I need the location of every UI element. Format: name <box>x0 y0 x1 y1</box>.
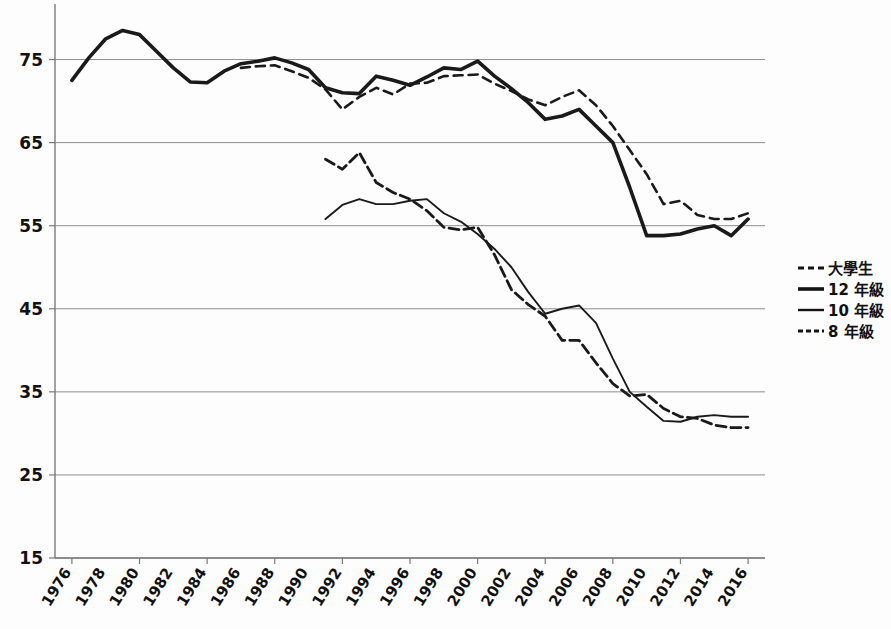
x-tick-label-1982: 1982 <box>139 565 176 610</box>
x-tick-label-2002: 2002 <box>477 565 514 610</box>
y-tick-label-35: 35 <box>19 382 43 402</box>
legend-label-1: 12 年級 <box>828 281 884 299</box>
series-line-1 <box>72 30 748 235</box>
x-tick-label-2014: 2014 <box>680 565 717 610</box>
data-series-group <box>72 30 748 427</box>
x-tick-label-1998: 1998 <box>410 565 447 610</box>
x-tick-label-2010: 2010 <box>613 565 650 610</box>
y-tick-label-45: 45 <box>19 299 43 319</box>
x-tick-label-1988: 1988 <box>241 565 278 610</box>
legend-label-2: 10 年級 <box>828 302 884 320</box>
x-tick-label-2016: 2016 <box>714 565 751 610</box>
series-line-3 <box>325 153 748 428</box>
legend-item-3: 8 年級 <box>798 323 874 341</box>
x-axis-tick-labels: 1976197819801982198419861988199019921994… <box>38 565 752 610</box>
x-tick-label-2006: 2006 <box>545 565 582 610</box>
x-tick-label-2012: 2012 <box>646 565 683 610</box>
chart-figure: 15253545556575 1976197819801982198419861… <box>0 0 891 629</box>
legend-label-0: 大學生 <box>828 260 873 278</box>
x-tick-label-1990: 1990 <box>275 565 312 610</box>
y-tick-label-65: 65 <box>19 133 43 153</box>
legend-item-2: 10 年級 <box>798 302 884 320</box>
x-tick-label-1980: 1980 <box>106 565 143 610</box>
x-tick-label-2000: 2000 <box>444 565 481 610</box>
y-tick-label-55: 55 <box>19 216 43 236</box>
x-tick-label-1992: 1992 <box>308 565 345 610</box>
legend-item-0: 大學生 <box>798 260 873 278</box>
gridlines-group <box>55 60 765 558</box>
legend: 大學生12 年級10 年級8 年級 <box>798 260 884 341</box>
y-tick-label-75: 75 <box>19 50 43 70</box>
axes-group <box>49 4 765 564</box>
x-tick-label-1996: 1996 <box>376 565 413 610</box>
x-tick-label-2008: 2008 <box>579 565 616 610</box>
x-tick-label-1984: 1984 <box>173 565 210 610</box>
y-tick-label-25: 25 <box>19 465 43 485</box>
y-axis-tick-labels: 15253545556575 <box>19 50 43 568</box>
x-tick-label-2004: 2004 <box>511 565 548 610</box>
x-tick-label-1976: 1976 <box>38 565 75 610</box>
x-tick-label-1994: 1994 <box>342 565 379 610</box>
line-chart-canvas: 15253545556575 1976197819801982198419861… <box>0 0 891 629</box>
x-tick-label-1978: 1978 <box>72 565 109 610</box>
legend-label-3: 8 年級 <box>828 323 874 341</box>
legend-item-1: 12 年級 <box>798 281 884 299</box>
x-tick-label-1986: 1986 <box>207 565 244 610</box>
y-tick-label-15: 15 <box>19 548 43 568</box>
